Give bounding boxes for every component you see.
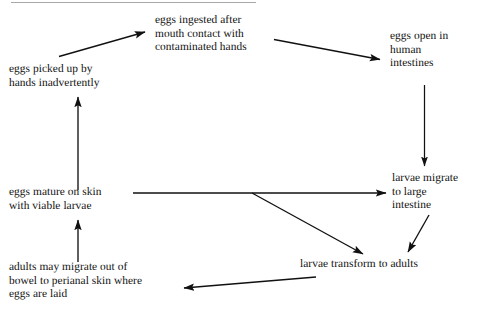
node-adults-may-migrate-out-of-bowel: adults may migrate out of bowel to peria… xyxy=(9,261,199,302)
edge-larvae-transform-to-adults-migrate xyxy=(184,277,316,288)
node-eggs-picked-up-by-hands: eggs picked up by hands inadvertently xyxy=(9,63,177,90)
edge-eggs-mature-branch-to-larvae-transform xyxy=(252,193,363,254)
node-larvae-transform-to-adults: larvae transform to adults xyxy=(300,258,480,272)
node-larvae-migrate-to-large-intestine: larvae migrate to large intestine xyxy=(392,172,490,213)
diagram-canvas: eggs picked up by hands inadvertently eg… xyxy=(0,0,491,320)
edge-larvae-migrate-to-larvae-transform xyxy=(408,215,429,252)
node-eggs-open-in-human-intestines: eggs open in human intestines xyxy=(390,30,490,71)
edge-eggs-picked-up-to-eggs-ingested xyxy=(59,32,145,57)
node-eggs-mature-on-skin: eggs mature on skin with viable larvae xyxy=(9,186,169,213)
top-rule-divider xyxy=(11,2,256,3)
node-eggs-ingested-after-mouth-contact: eggs ingested after mouth contact with c… xyxy=(155,14,307,55)
